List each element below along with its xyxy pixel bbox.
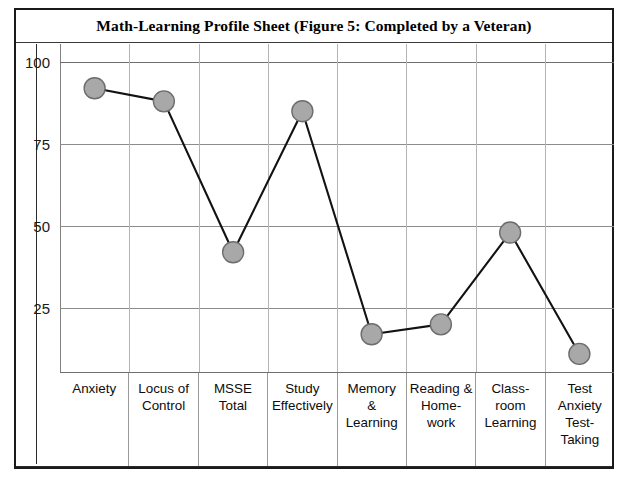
category-cell-study-effectively: Study Effectively — [267, 373, 336, 467]
category-label: Test Anxiety Test- Taking — [558, 380, 602, 448]
data-point-marker — [569, 343, 590, 364]
page-title: Math-Learning Profile Sheet (Figure 5: C… — [96, 17, 531, 35]
category-label: Reading & Home- work — [410, 380, 473, 431]
category-cell-test-anxiety-test-taking: Test Anxiety Test- Taking — [545, 373, 614, 467]
category-label-table: Anxiety Locus of Control MSSE Total Stud… — [60, 372, 614, 467]
y-tick-100: 100 — [25, 54, 50, 71]
y-tick-25: 25 — [33, 300, 50, 317]
category-cell-memory-and-learning: Memory & Learning — [337, 373, 406, 467]
category-label: Locus of Control — [138, 380, 189, 414]
category-cell-msse-total: MSSE Total — [198, 373, 267, 467]
category-label: Anxiety — [72, 380, 116, 397]
table-bottom-rule — [16, 466, 612, 467]
chart-title-band: Math-Learning Profile Sheet (Figure 5: C… — [16, 10, 612, 43]
plot-area — [60, 44, 614, 372]
category-cell-locus-of-control: Locus of Control — [128, 373, 197, 467]
data-point-marker — [500, 222, 521, 243]
data-point-marker — [153, 91, 174, 112]
y-tick-50: 50 — [33, 218, 50, 235]
y-tick-75: 75 — [33, 136, 50, 153]
category-label: Class- room Learning — [484, 380, 536, 431]
category-cell-anxiety: Anxiety — [60, 373, 128, 467]
data-point-marker — [223, 242, 244, 263]
y-axis-tick-labels: 100 75 50 25 — [0, 44, 58, 372]
data-point-marker — [84, 78, 105, 99]
category-cell-classroom-learning: Class- room Learning — [475, 373, 544, 467]
profile-line-series — [60, 44, 614, 372]
data-point-marker — [430, 314, 451, 335]
data-point-marker — [361, 324, 382, 345]
category-label: Study Effectively — [272, 380, 333, 414]
category-label: Memory & Learning — [346, 380, 398, 431]
series-polyline — [95, 88, 580, 354]
data-point-marker — [292, 101, 313, 122]
category-cell-reading-and-homework: Reading & Home- work — [406, 373, 475, 467]
figure-sheet: Math-Learning Profile Sheet (Figure 5: C… — [0, 0, 628, 477]
category-label: MSSE Total — [214, 380, 252, 414]
